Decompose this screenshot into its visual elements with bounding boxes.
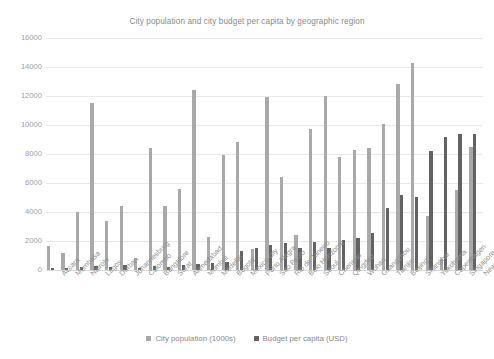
bar-group xyxy=(410,38,425,270)
bar-group xyxy=(163,38,178,270)
x-tick-label: Colombo xyxy=(147,272,152,277)
bar-group xyxy=(75,38,90,270)
legend-swatch-icon xyxy=(254,336,259,341)
x-tick-label: Medellin xyxy=(220,272,225,277)
bar-population xyxy=(338,157,341,270)
bar-group xyxy=(352,38,367,270)
bar-group xyxy=(148,38,163,270)
bar-group xyxy=(468,38,483,270)
y-tick-label-0: 0 xyxy=(38,266,42,274)
bar-group xyxy=(439,38,454,270)
bar-population xyxy=(265,97,268,270)
x-tick-label: Durban xyxy=(118,272,123,277)
bar-group xyxy=(90,38,105,270)
bar-group xyxy=(454,38,469,270)
x-tick-label: Mombasa xyxy=(74,272,79,277)
x-tick-label: Surat xyxy=(176,272,181,277)
chart-title: City population and city budget per capi… xyxy=(0,17,494,26)
bar-budget xyxy=(429,151,432,270)
bar-population xyxy=(396,84,399,270)
bar-group xyxy=(104,38,119,270)
bar-chart: City population and city budget per capi… xyxy=(0,0,494,359)
bar-population xyxy=(236,142,239,270)
bar-group xyxy=(46,38,61,270)
x-tick-label: Ahmedabad xyxy=(191,272,196,277)
y-tick-label-2000: 2000 xyxy=(25,237,42,245)
bar-population xyxy=(309,129,312,270)
x-tick-label: Qingdao xyxy=(351,272,356,277)
x-tick-label: Tianjin xyxy=(395,272,400,277)
bar-group xyxy=(294,38,309,270)
x-tick-label: Wuhan xyxy=(366,272,371,277)
bar-group xyxy=(323,38,338,270)
bar-population xyxy=(47,246,50,270)
x-tick-label: Mumbai xyxy=(206,272,211,277)
y-tick-label-4000: 4000 xyxy=(25,208,42,216)
bar-group xyxy=(61,38,76,270)
x-tick-label: Beijing xyxy=(409,272,414,277)
legend-item[interactable]: City population (1000s) xyxy=(146,334,235,343)
x-tick-label: Yokohama xyxy=(439,272,444,277)
bar-group xyxy=(381,38,396,270)
legend-swatch-icon xyxy=(146,336,151,341)
y-tick-label-8000: 8000 xyxy=(25,150,42,158)
x-tick-label: Sao Paulo xyxy=(278,272,283,277)
x-axis-labels: AccaraMombasaNairobiLagosDurbanJohannesb… xyxy=(46,272,483,334)
bar-group xyxy=(250,38,265,270)
bar-population xyxy=(382,124,385,270)
x-tick-label: Porto Alegra xyxy=(264,272,269,277)
bar-group xyxy=(235,38,250,270)
x-tick-label: Nairobi xyxy=(89,272,94,277)
bar-group xyxy=(206,38,221,270)
y-tick-label-6000: 6000 xyxy=(25,179,42,187)
y-tick-label-14000: 14000 xyxy=(21,63,42,71)
x-tick-label: Shanghai xyxy=(424,272,429,277)
bar-population xyxy=(411,63,414,270)
chart-legend: City population (1000s)Budget per capita… xyxy=(0,334,494,343)
legend-label: City population (1000s) xyxy=(155,334,235,343)
y-axis-labels: 0200040006000800010000120001400016000 xyxy=(0,38,42,270)
x-tick-label: Belo Horizonte xyxy=(307,272,312,277)
bar-group xyxy=(279,38,294,270)
x-tick-label: Mexico city xyxy=(249,272,254,277)
x-tick-label: Rio de Janeiro xyxy=(293,272,298,277)
plot-area xyxy=(46,38,483,270)
bar-group xyxy=(177,38,192,270)
x-tick-label: Guangzhou xyxy=(380,272,385,277)
bar-group xyxy=(396,38,411,270)
x-tick-label: Copenhagen xyxy=(453,272,458,277)
bar-budget xyxy=(415,197,418,270)
bar-group xyxy=(337,38,352,270)
bar-group xyxy=(133,38,148,270)
bar-group xyxy=(119,38,134,270)
y-tick-label-12000: 12000 xyxy=(21,92,42,100)
x-tick-label: Seoul xyxy=(322,272,327,277)
bar-group xyxy=(366,38,381,270)
bar-group xyxy=(221,38,236,270)
bar-group xyxy=(265,38,280,270)
bar-group xyxy=(308,38,323,270)
bar-series-container xyxy=(46,38,483,270)
bar-budget xyxy=(51,268,54,270)
legend-label: Budget per capita (USD) xyxy=(263,334,348,343)
bar-population xyxy=(90,103,93,270)
x-tick-label: Johannesburg xyxy=(133,272,138,277)
bar-group xyxy=(425,38,440,270)
x-tick-label: Bangalore xyxy=(162,272,167,277)
legend-item[interactable]: Budget per capita (USD) xyxy=(254,334,348,343)
x-tick-label: New York xyxy=(482,272,487,277)
bar-population xyxy=(192,90,195,270)
y-tick-label-10000: 10000 xyxy=(21,121,42,129)
x-tick-label: Bogota xyxy=(235,272,240,277)
x-tick-label: Chengdu xyxy=(337,272,342,277)
y-tick-label-16000: 16000 xyxy=(21,34,42,42)
x-tick-label: Accara xyxy=(60,272,65,277)
x-tick-label: Lagos xyxy=(104,272,109,277)
bar-group xyxy=(192,38,207,270)
x-tick-label: Singapore xyxy=(468,272,473,277)
